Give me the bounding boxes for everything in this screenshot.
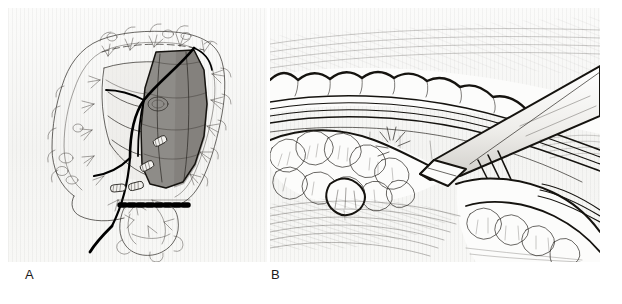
sigmoid-rectum [117,206,183,262]
panel-b [270,8,600,262]
panel-b-label: B [271,268,280,281]
panel-b-illustration [270,8,600,262]
panel-a-illustration [8,8,267,262]
resection-specimen-shaded [141,48,210,192]
panel-a-label: A [25,268,34,281]
panel-a [8,8,267,262]
figure-container: A B [0,0,622,304]
